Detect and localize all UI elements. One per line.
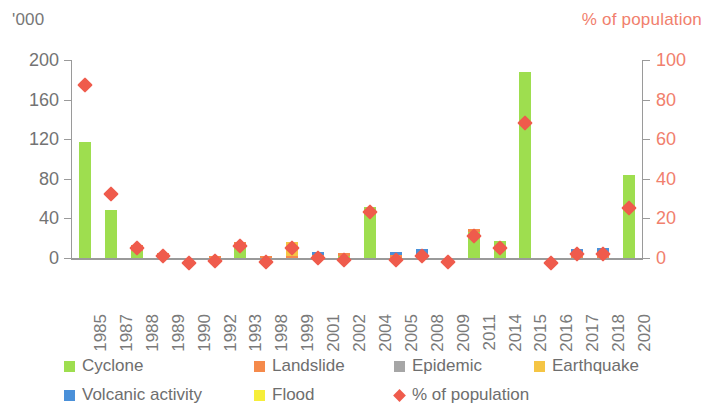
right-axis-tick xyxy=(642,218,650,219)
legend-item-flood[interactable]: Flood xyxy=(254,385,315,405)
legend-item-label: % of population xyxy=(412,385,529,405)
legend-row: Volcanic activityFlood% of population xyxy=(64,385,704,413)
right-axis-tick xyxy=(642,60,650,61)
x-axis-category-label: 2008 xyxy=(428,314,448,352)
left-axis-unit-caption: '000 xyxy=(12,10,44,30)
legend-square-icon xyxy=(534,361,545,372)
right-axis-tick xyxy=(642,100,650,101)
x-axis-category-label: 2020 xyxy=(635,314,655,352)
legend-item-label: Earthquake xyxy=(552,356,639,376)
x-axis-category-label: 2014 xyxy=(506,314,526,352)
left-axis-tick xyxy=(64,179,72,180)
x-axis-labels: 1985198719881989199019921993199819992001… xyxy=(72,262,642,342)
legend-square-icon xyxy=(64,361,75,372)
legend-item-label: Landslide xyxy=(272,356,345,376)
legend-item-cyclone[interactable]: Cyclone xyxy=(64,356,143,376)
legend-square-icon xyxy=(394,361,405,372)
legend-square-icon xyxy=(254,390,265,401)
percent-of-population-marker[interactable] xyxy=(77,78,93,94)
bar-segment[interactable] xyxy=(105,210,117,258)
left-axis-tick xyxy=(64,258,72,259)
left-axis-tick xyxy=(64,60,72,61)
legend-row: CycloneLandslideEpidemicEarthquake xyxy=(64,356,704,385)
x-axis-category-label: 1992 xyxy=(221,314,241,352)
legend-item-label: Epidemic xyxy=(412,356,482,376)
right-axis-line xyxy=(642,60,643,259)
x-axis-category-label: 1989 xyxy=(169,314,189,352)
x-axis-category-label: 2016 xyxy=(557,314,577,352)
x-axis-category-label: 1990 xyxy=(195,314,215,352)
x-axis-category-label: 1998 xyxy=(272,314,292,352)
right-axis-tick-label: 100 xyxy=(656,51,686,69)
legend-item-of-population[interactable]: % of population xyxy=(394,385,529,405)
legend-item-label: Cyclone xyxy=(82,356,143,376)
left-axis-tick xyxy=(64,218,72,219)
left-axis-tick xyxy=(64,139,72,140)
x-axis-category-label: 1993 xyxy=(246,314,266,352)
left-axis-tick-label: 80 xyxy=(39,170,59,188)
x-axis-category-label: 2015 xyxy=(531,314,551,352)
bar-segment[interactable] xyxy=(519,72,531,258)
right-axis-tick xyxy=(642,139,650,140)
bar-segment[interactable] xyxy=(286,256,298,258)
bar-segment[interactable] xyxy=(79,142,91,258)
percent-of-population-marker[interactable] xyxy=(103,186,119,202)
x-axis-category-label: 2004 xyxy=(376,314,396,352)
legend-item-earthquake[interactable]: Earthquake xyxy=(534,356,639,376)
legend-item-label: Flood xyxy=(272,385,315,405)
chart-root: '000 % of population 20016012080400 1008… xyxy=(0,0,710,413)
bar-segment[interactable] xyxy=(623,175,635,258)
bar-group[interactable] xyxy=(623,175,635,258)
right-axis-tick xyxy=(642,258,650,259)
bar-group[interactable] xyxy=(79,142,91,258)
legend-square-icon xyxy=(254,361,265,372)
x-axis-category-label: 1987 xyxy=(117,314,137,352)
chart-legend: CycloneLandslideEpidemicEarthquakeVolcan… xyxy=(64,356,704,413)
legend-diamond-icon xyxy=(393,389,406,402)
x-axis-category-label: 2011 xyxy=(480,314,500,351)
right-axis-tick-label: 60 xyxy=(656,130,676,148)
x-axis-category-label: 2017 xyxy=(583,314,603,352)
x-axis-category-label: 2018 xyxy=(609,314,629,352)
x-axis-category-label: 1988 xyxy=(143,314,163,352)
right-axis-tick-label: 40 xyxy=(656,170,676,188)
right-axis-unit-caption: % of population xyxy=(582,10,702,30)
left-axis-tick xyxy=(64,100,72,101)
left-axis-tick-label: 160 xyxy=(29,91,59,109)
legend-item-label: Volcanic activity xyxy=(82,385,202,405)
legend-item-landslide[interactable]: Landslide xyxy=(254,356,345,376)
right-axis-tick-label: 80 xyxy=(656,91,676,109)
left-axis-tick-label: 200 xyxy=(29,51,59,69)
bar-group[interactable] xyxy=(105,210,117,258)
x-axis-category-label: 2001 xyxy=(324,314,344,352)
legend-square-icon xyxy=(64,390,75,401)
x-axis-category-label: 2009 xyxy=(454,314,474,352)
legend-item-volcanic-activity[interactable]: Volcanic activity xyxy=(64,385,202,405)
right-axis-tick-label: 20 xyxy=(656,209,676,227)
bar-group[interactable] xyxy=(519,72,531,258)
x-axis-category-label: 2005 xyxy=(402,314,422,352)
legend-item-epidemic[interactable]: Epidemic xyxy=(394,356,482,376)
left-axis-tick-label: 120 xyxy=(29,130,59,148)
left-axis-tick-label: 0 xyxy=(49,249,59,267)
plot-area xyxy=(72,60,642,258)
x-axis-category-label: 2002 xyxy=(350,314,370,352)
x-axis-category-label: 1985 xyxy=(91,314,111,352)
left-axis-tick-label: 40 xyxy=(39,209,59,227)
right-axis-tick-label: 0 xyxy=(656,249,666,267)
right-axis-tick xyxy=(642,179,650,180)
x-axis-category-label: 1999 xyxy=(298,314,318,352)
